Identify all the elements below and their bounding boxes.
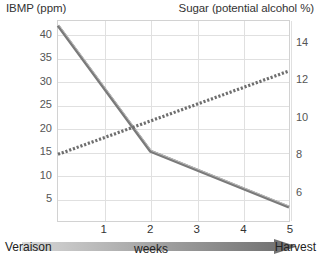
right-axis-ticks: 68101214 (296, 20, 318, 222)
left-axis-title: IBMP (ppm) (6, 2, 66, 14)
axis-tick-label: 30 (22, 76, 52, 87)
left-axis-ticks: 510152025303540 (22, 20, 52, 222)
x-axis-ticks: 12345 (57, 224, 290, 240)
axis-tick-label: 35 (22, 52, 52, 63)
axis-tick-label: 10 (22, 170, 52, 181)
gridline-v (291, 21, 292, 221)
x-tick-label: 2 (147, 224, 153, 236)
sugar-line-series (58, 71, 289, 154)
plot-area (57, 20, 290, 222)
chart-container: IBMP (ppm) Sugar (potential alcohol %) 5… (0, 0, 319, 257)
axis-tick-label: 10 (296, 112, 318, 123)
axis-tick-label: 25 (22, 99, 52, 110)
axis-tick-label: 14 (296, 37, 318, 48)
axis-tick-label: 40 (22, 29, 52, 40)
axis-tick-label: 5 (22, 193, 52, 204)
x-tick-label: 3 (194, 224, 200, 236)
weeks-label: weeks (134, 243, 168, 255)
ibmp-line-series (58, 26, 289, 207)
axis-tick-label: 12 (296, 74, 318, 85)
series-lines (58, 21, 289, 221)
veraison-label: Veraison (5, 241, 52, 253)
axis-tick-label: 15 (22, 146, 52, 157)
harvest-label: Harvest (275, 241, 316, 253)
axis-tick-label: 20 (22, 123, 52, 134)
x-tick-label: 4 (240, 224, 246, 236)
axis-tick-label: 6 (296, 187, 318, 198)
right-axis-title: Sugar (potential alcohol %) (179, 2, 314, 14)
ibmp-line-highlight (59, 25, 290, 206)
axis-tick-label: 8 (296, 149, 318, 160)
x-tick-label: 1 (100, 224, 106, 236)
x-tick-label: 5 (287, 224, 293, 236)
